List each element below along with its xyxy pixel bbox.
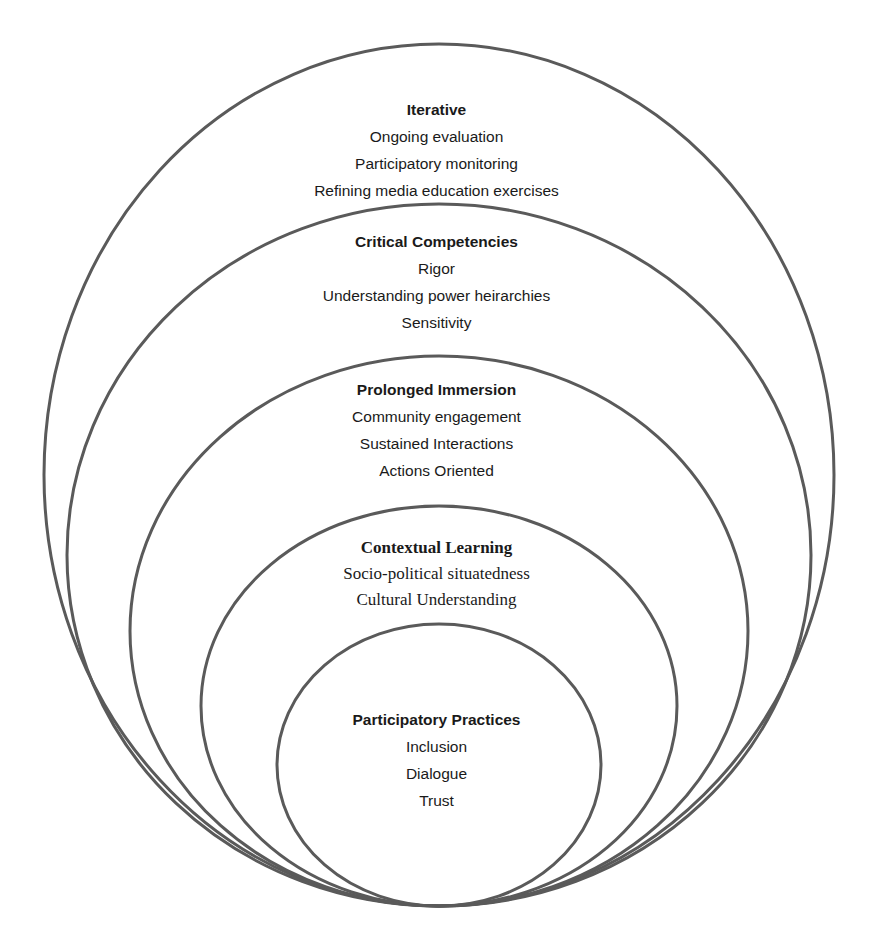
layer-title: Contextual Learning bbox=[0, 535, 873, 561]
layer-item: Inclusion bbox=[0, 733, 873, 760]
layer-contextual-learning: Contextual Learning Socio-political situ… bbox=[0, 535, 873, 613]
layer-item: Refining media education exercises bbox=[0, 177, 873, 204]
layer-item: Participatory monitoring bbox=[0, 150, 873, 177]
layer-title: Iterative bbox=[0, 96, 873, 123]
layer-item: Actions Oriented bbox=[0, 457, 873, 484]
layer-item: Cultural Understanding bbox=[0, 587, 873, 613]
layer-item: Rigor bbox=[0, 255, 873, 282]
layer-item: Understanding power heirarchies bbox=[0, 282, 873, 309]
layer-item: Dialogue bbox=[0, 760, 873, 787]
layer-title: Critical Competencies bbox=[0, 228, 873, 255]
layer-item: Community engagement bbox=[0, 403, 873, 430]
layer-prolonged-immersion: Prolonged Immersion Community engagement… bbox=[0, 376, 873, 484]
layer-title: Participatory Practices bbox=[0, 706, 873, 733]
layer-item: Ongoing evaluation bbox=[0, 123, 873, 150]
layer-title: Prolonged Immersion bbox=[0, 376, 873, 403]
layer-item: Socio-political situatedness bbox=[0, 561, 873, 587]
layer-critical-competencies: Critical Competencies Rigor Understandin… bbox=[0, 228, 873, 336]
layer-iterative: Iterative Ongoing evaluation Participato… bbox=[0, 96, 873, 204]
layer-item: Sensitivity bbox=[0, 309, 873, 336]
layer-item: Sustained Interactions bbox=[0, 430, 873, 457]
layer-item: Trust bbox=[0, 787, 873, 814]
layer-participatory-practices: Participatory Practices Inclusion Dialog… bbox=[0, 706, 873, 814]
